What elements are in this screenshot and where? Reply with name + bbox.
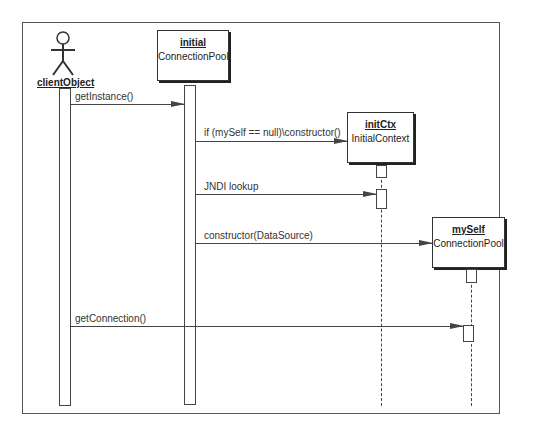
object-class: InitialContext — [348, 133, 413, 144]
message-label-getInstance: getInstance() — [75, 91, 133, 102]
arrowhead-icon — [363, 191, 377, 197]
object-class: ConnectionPool — [433, 238, 504, 249]
object-mySelf: mySelf ConnectionPool — [432, 217, 505, 268]
object-name: mySelf — [433, 224, 504, 235]
object-name: initial — [158, 37, 228, 48]
arrowhead-icon — [171, 101, 185, 107]
message-label-jndi-lookup: JNDI lookup — [204, 181, 258, 192]
object-initCtx: initCtx InitialContext — [347, 112, 414, 163]
message-label-constructor-datasource: constructor(DataSource) — [204, 230, 313, 241]
message-label-getConnection: getConnection() — [75, 313, 146, 324]
activation-mySelf-1 — [466, 269, 477, 283]
message-arrow-jndi-lookup — [196, 194, 376, 195]
activation-initCtx-1 — [376, 165, 387, 178]
actor-label-clientObject: clientObject — [37, 77, 94, 88]
message-arrow-constructor-datasource — [196, 243, 432, 244]
activation-mySelf-2 — [463, 325, 474, 342]
message-label-constructor-initCtx: if (mySelf == null)\constructor() — [204, 127, 341, 138]
object-initial: initial ConnectionPool — [157, 30, 229, 81]
actor-icon — [48, 30, 78, 80]
activation-initCtx-2 — [376, 189, 387, 209]
message-arrow-getInstance — [71, 104, 184, 105]
activation-clientObject — [59, 88, 71, 406]
arrowhead-icon — [334, 138, 348, 144]
activation-initial — [184, 85, 196, 405]
message-arrow-constructor-initCtx — [196, 141, 347, 142]
object-name: initCtx — [348, 119, 413, 130]
object-class: ConnectionPool — [158, 51, 228, 62]
arrowhead-icon — [450, 323, 464, 329]
message-arrow-getConnection — [71, 326, 463, 327]
arrowhead-icon — [419, 240, 433, 246]
